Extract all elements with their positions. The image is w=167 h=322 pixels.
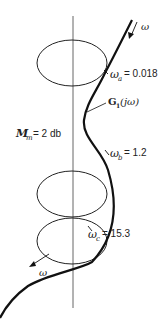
omega-a-value: = 0.018 — [124, 68, 158, 79]
omega-b-value: = 1.2 — [124, 147, 147, 158]
omega-c-value: = 15.3 — [102, 228, 131, 239]
g1-frequency-response-curve — [0, 20, 132, 318]
omega-label-top: ω — [141, 21, 149, 32]
polar-plot-diagram: ω ω ω a = 0.018 ω b = 1.2 ω c = 15.3 G 1… — [0, 0, 167, 322]
tick-omega-b — [105, 150, 109, 155]
g1-label-argument: (jω) — [120, 96, 139, 107]
omega-label-bottom: ω — [39, 267, 47, 278]
omega-c-subscript: c — [96, 235, 100, 243]
omega-a-subscript: a — [118, 75, 122, 83]
m-circle-middle — [37, 171, 107, 217]
g1-leader-line — [87, 103, 106, 112]
omega-b-subscript: b — [118, 154, 123, 162]
mm-value: = 2 db — [33, 128, 62, 139]
mm-label-subscript: m — [26, 134, 33, 142]
direction-arrow-bottom — [29, 254, 49, 267]
m-circle-top — [37, 40, 107, 86]
